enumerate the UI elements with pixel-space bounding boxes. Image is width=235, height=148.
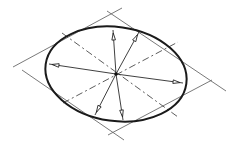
arrowhead-icon bbox=[120, 110, 124, 117]
center-axis-1 bbox=[62, 33, 178, 117]
radius-arrow-bottom bbox=[116, 74, 123, 120]
center-axis-2 bbox=[63, 42, 178, 103]
rhombus-side-1 bbox=[13, 8, 122, 67]
diagram-canvas bbox=[0, 0, 235, 148]
radius-arrow-top bbox=[112, 30, 116, 74]
arrowhead-icon bbox=[173, 80, 180, 84]
rhombus-side-4 bbox=[108, 80, 212, 135]
radius-arrow-left bbox=[49, 64, 116, 74]
dashed-center-axes bbox=[62, 33, 178, 117]
arrowhead-icon bbox=[52, 64, 59, 68]
radius-arrow-top-right bbox=[116, 32, 139, 74]
arrowhead-icon bbox=[133, 35, 138, 42]
arrowhead-icon bbox=[112, 33, 116, 40]
center-dot bbox=[114, 72, 118, 76]
rhombus-side-3 bbox=[22, 70, 124, 140]
arrowhead-icon bbox=[96, 105, 101, 112]
radius-arrow-right bbox=[116, 74, 183, 83]
isometric-ellipse-diagram bbox=[0, 0, 235, 148]
center-point bbox=[114, 72, 118, 76]
